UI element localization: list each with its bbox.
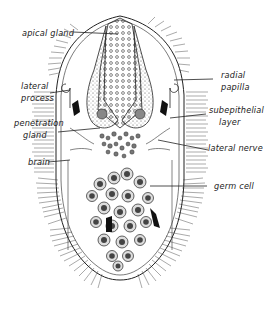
label-germ-cell: germ cell (214, 182, 254, 191)
label-penetration-gland-line1: penetration (14, 119, 64, 128)
label-radial-papilla-line2: papilla (221, 83, 250, 92)
gland-nucleus-right (135, 109, 145, 119)
label-brain: brain (28, 158, 50, 167)
flame-cell-left (72, 100, 80, 116)
label-lateral-process-line2: process (21, 94, 54, 103)
brain-mass (100, 132, 140, 158)
label-apical-gland: apical gland (22, 29, 74, 38)
label-radial-papilla-line1: radial (221, 71, 245, 80)
gland-nucleus-left (97, 109, 107, 119)
label-lateral-nerve: lateral nerve (208, 144, 263, 153)
flame-cell-lower-right (150, 208, 160, 228)
miracidium-diagram: apical gland lateral process penetration… (0, 0, 269, 311)
label-subepithelial-layer-line1: subepithelial (209, 106, 264, 115)
diagram-drawing (0, 0, 269, 311)
flame-cell-right (160, 100, 168, 116)
flame-cell-lower-left (106, 216, 112, 232)
label-penetration-gland-line2: gland (23, 131, 47, 140)
nerve-lines (68, 128, 172, 250)
label-lateral-process-line1: lateral (21, 82, 49, 91)
label-subepithelial-layer-line2: layer (219, 118, 241, 127)
